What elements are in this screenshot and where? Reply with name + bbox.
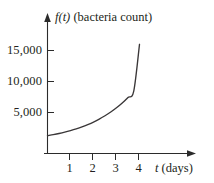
x-axis-title: t (days) bbox=[155, 162, 193, 175]
y-axis-title-description: (bacteria count) bbox=[73, 10, 152, 24]
y-axis-tick-label-10000: 10,000 bbox=[2, 75, 42, 88]
x-axis-tick-label-2: 2 bbox=[86, 162, 100, 175]
x-axis-tick-label-4: 4 bbox=[132, 162, 146, 175]
y-axis-title-argument: (t) bbox=[58, 10, 70, 24]
x-axis-title-description: (days) bbox=[162, 161, 193, 175]
y-axis-arrow-icon bbox=[44, 13, 51, 22]
y-axis-tick-label-15000: 15,000 bbox=[2, 44, 42, 57]
x-axis-tick-label-3: 3 bbox=[109, 162, 123, 175]
chart-canvas bbox=[0, 0, 214, 183]
y-axis-tick-label-5000: 5,000 bbox=[2, 106, 42, 119]
bacteria-growth-chart: 15,000 10,000 5,000 1 2 3 4 f(t) (bacter… bbox=[0, 0, 214, 183]
x-axis-tick-label-1: 1 bbox=[63, 162, 77, 175]
y-axis-title: f(t) (bacteria count) bbox=[55, 11, 152, 24]
x-axis-arrow-icon bbox=[187, 150, 196, 157]
data-curve-f-of-t bbox=[48, 44, 140, 135]
